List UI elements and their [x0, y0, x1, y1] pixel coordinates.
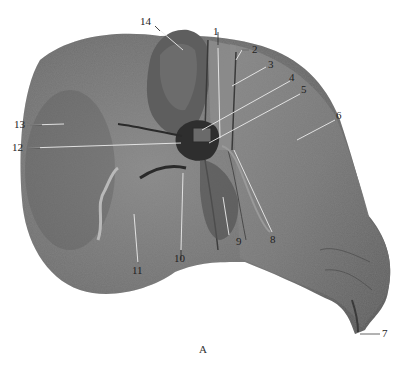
label-5: 5: [301, 84, 307, 95]
label-3: 3: [268, 59, 274, 70]
label-9: 9: [236, 236, 242, 247]
figure: 1 2 3 4 5 6 7 8 9 10 11 12 13 14 A: [0, 0, 403, 375]
liver-specimen-image: [0, 0, 403, 375]
label-6: 6: [336, 110, 342, 121]
label-14: 14: [140, 16, 151, 27]
label-8: 8: [270, 234, 276, 245]
label-2: 2: [252, 44, 258, 55]
figure-caption: A: [199, 344, 207, 355]
label-1: 1: [213, 26, 219, 37]
label-13: 13: [14, 119, 25, 130]
label-7: 7: [382, 328, 388, 339]
label-10: 10: [174, 253, 185, 264]
label-4: 4: [289, 72, 295, 83]
label-12: 12: [12, 142, 23, 153]
label-11: 11: [132, 265, 143, 276]
